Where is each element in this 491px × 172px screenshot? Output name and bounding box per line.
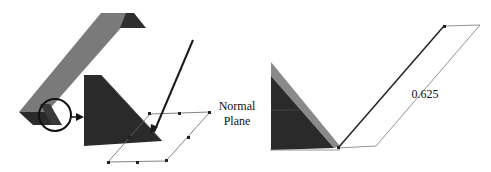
section-view [270,62,340,150]
normal-plane-label-line1: Normal [214,99,260,114]
gusset-body [84,75,162,146]
gusset-detail [84,75,162,146]
dimension-label: 0.625 [407,87,443,102]
section-gusset-body [271,76,334,150]
detail-pointer-arrowhead-icon [76,113,84,121]
diagram-canvas [0,0,491,172]
normal-plane-label: Normal Plane [214,99,260,129]
normal-direction-arrow-line [154,40,193,132]
normal-plane-label-line2: Plane [214,114,260,129]
